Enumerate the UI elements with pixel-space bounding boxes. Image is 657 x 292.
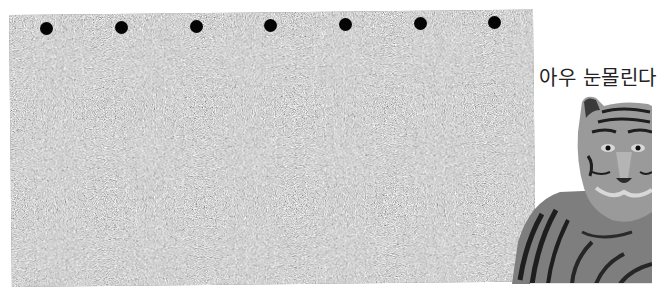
- convergence-dot-icon: [414, 17, 427, 30]
- convergence-dot-icon: [339, 18, 352, 31]
- convergence-dot-icon: [190, 20, 203, 33]
- convergence-dot-icon: [40, 22, 53, 35]
- convergence-dot-icon: [264, 19, 277, 32]
- convergence-dot-icon: [115, 21, 128, 34]
- noise-pattern: [9, 10, 536, 287]
- caption-text: 아우 눈몰린다: [539, 62, 657, 91]
- stereogram-panel: [9, 10, 536, 287]
- divider: [530, 283, 652, 284]
- convergence-dot-icon: [488, 16, 501, 29]
- tiger-icon: [512, 92, 652, 284]
